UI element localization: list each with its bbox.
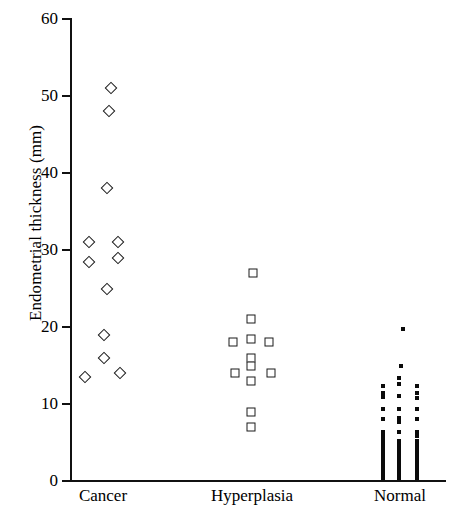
y-tick-label-40: 40 xyxy=(14,164,58,181)
normal-point xyxy=(397,407,401,411)
y-tick-label-0: 0 xyxy=(14,472,58,489)
hyperplasia-point xyxy=(267,369,276,378)
y-tick-label-10: 10 xyxy=(14,395,58,412)
cancer-point xyxy=(101,282,114,295)
normal-point xyxy=(415,391,419,395)
hyperplasia-point xyxy=(231,369,240,378)
hyperplasia-point xyxy=(247,334,256,343)
y-tick-60 xyxy=(62,18,70,20)
cancer-point xyxy=(112,251,125,264)
normal-point xyxy=(397,430,401,434)
y-tick-label-30: 30 xyxy=(14,241,58,258)
hyperplasia-point xyxy=(247,423,256,432)
normal-point xyxy=(415,417,419,421)
normal-point xyxy=(415,476,419,480)
normal-point xyxy=(397,420,401,424)
normal-point xyxy=(397,476,401,480)
normal-point xyxy=(415,396,419,400)
y-tick-label-60: 60 xyxy=(14,10,58,27)
hyperplasia-point xyxy=(247,315,256,324)
cancer-point xyxy=(112,236,125,249)
cancer-point xyxy=(79,371,92,384)
normal-point xyxy=(397,382,401,386)
hyperplasia-point xyxy=(229,338,238,347)
scatter-plot: Endometrial thickness (mm) 6050403020100… xyxy=(0,0,454,519)
cancer-point xyxy=(103,105,116,118)
cancer-point xyxy=(98,328,111,341)
normal-point xyxy=(381,407,385,411)
y-tick-label-50: 50 xyxy=(14,87,58,104)
y-tick-30 xyxy=(62,249,70,251)
cancer-point xyxy=(101,182,114,195)
normal-point xyxy=(415,384,419,388)
normal-point xyxy=(415,434,419,438)
normal-point xyxy=(415,407,419,411)
normal-point xyxy=(381,384,385,388)
y-tick-20 xyxy=(62,326,70,328)
hyperplasia-point xyxy=(247,361,256,370)
normal-point xyxy=(399,364,403,368)
y-tick-10 xyxy=(62,403,70,405)
cancer-point xyxy=(114,367,127,380)
cancer-point xyxy=(83,255,96,268)
y-tick-40 xyxy=(62,172,70,174)
cancer-point xyxy=(98,351,111,364)
normal-point xyxy=(381,476,385,480)
hyperplasia-point xyxy=(265,338,274,347)
hyperplasia-point xyxy=(249,269,258,278)
normal-point xyxy=(397,376,401,380)
x-axis-line xyxy=(70,480,446,482)
category-label-normal: Normal xyxy=(374,486,426,506)
normal-point xyxy=(381,417,385,421)
y-axis-line xyxy=(70,18,72,482)
normal-point xyxy=(397,394,401,398)
hyperplasia-point xyxy=(247,407,256,416)
hyperplasia-point xyxy=(247,376,256,385)
normal-point xyxy=(401,327,405,331)
y-tick-0 xyxy=(62,480,70,482)
y-tick-50 xyxy=(62,95,70,97)
normal-point xyxy=(381,395,385,399)
category-label-cancer: Cancer xyxy=(79,486,127,506)
normal-point xyxy=(381,434,385,438)
y-tick-label-20: 20 xyxy=(14,318,58,335)
cancer-point xyxy=(83,236,96,249)
category-label-hyperplasia: Hyperplasia xyxy=(211,486,293,506)
cancer-point xyxy=(105,82,118,95)
